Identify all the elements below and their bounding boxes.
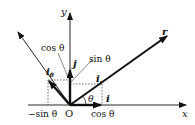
theta-angle-label: θ <box>88 94 94 104</box>
origin-label: O <box>65 108 73 119</box>
i-theta-subscript: θ <box>50 71 54 78</box>
y-axis-label: y <box>60 6 67 17</box>
i-r-vector-label: ir <box>96 73 104 85</box>
cos-theta-y-label: cos θ <box>41 43 64 53</box>
theta-arc <box>83 96 86 105</box>
polar-unit-vector-diagram: x y O r i j ir iθ θ cos θ sin θ cos θ −s… <box>0 0 195 125</box>
r-vector <box>70 36 167 105</box>
sin-theta-y-label: sin θ <box>89 54 111 64</box>
i-theta-vector <box>49 81 70 105</box>
diagram-canvas: x y O r i j ir iθ θ cos θ sin θ cos θ −s… <box>0 0 195 125</box>
cos-theta-x-label: cos θ <box>91 109 114 119</box>
cos-theta-y-leader <box>58 53 68 77</box>
i-vector-label: i <box>106 93 110 104</box>
j-vector-label: j <box>71 58 77 69</box>
i-theta-vector-label: iθ <box>46 66 54 78</box>
r-vector-label: r <box>162 26 168 37</box>
x-axis-label: x <box>182 108 188 119</box>
neg-sin-theta-x-label: −sin θ <box>28 109 57 119</box>
